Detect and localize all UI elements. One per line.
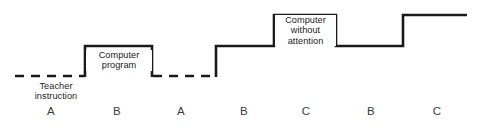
annotation-computer-program: Computer program [86,50,152,71]
phase-letter-0: A [39,105,63,117]
annotation-teacher-instruction: Teacher instruction [18,81,94,102]
annotation-computer-without-attention: Computer without attention [275,15,336,46]
phase-letter-2: A [169,105,193,117]
phase-letter-6: C [425,105,449,117]
phase-letter-5: B [359,105,383,117]
phase-letter-3: B [232,105,256,117]
phase-letter-1: B [105,105,129,117]
phase-letter-4: C [294,105,318,117]
step-diagram-figure: Teacher instruction Computer program Com… [0,0,483,128]
step-b2-c1-b3-c2 [216,15,467,77]
